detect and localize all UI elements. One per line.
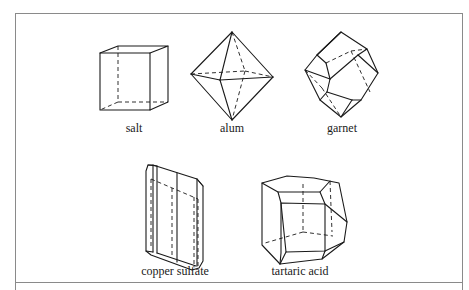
copper-sulfate-drawing <box>146 165 203 270</box>
tartaric-acid-drawing <box>262 176 347 264</box>
crystal-label-tartaric-acid: tartaric acid <box>272 264 329 279</box>
alum-octahedron-drawing <box>191 32 273 120</box>
crystal-label-alum: alum <box>220 121 244 136</box>
salt-cube-drawing <box>100 46 168 110</box>
crystal-illustrations <box>0 0 469 290</box>
garnet-dodecahedron-drawing <box>305 32 378 117</box>
crystal-label-salt: salt <box>126 121 143 136</box>
crystal-label-garnet: garnet <box>327 121 357 136</box>
crystal-label-copper-sulfate: copper sulfate <box>141 264 209 279</box>
